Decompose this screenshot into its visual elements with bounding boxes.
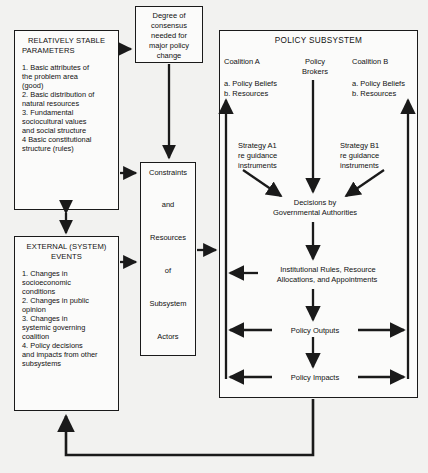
external-events-item-9: 4. Policy decisions [22, 341, 117, 350]
policy-subsystem-title: POLICY SUBSYSTEM [219, 36, 418, 46]
external-events-item-11: subsystems [22, 359, 117, 368]
stable-parameters-item-9: 4 Basic constitutional [22, 135, 119, 144]
stable-parameters-item-5: natural resources [22, 99, 117, 108]
external-events-item-5: opinion [22, 305, 117, 314]
coalition-b-strategy-line2: re guidance [340, 151, 410, 160]
institutional-rules-line2: Allocations, and Appointments [246, 275, 408, 284]
stable-parameters-item-6: 3. Fundamental [22, 108, 117, 117]
policy-brokers-line1: Policy [285, 57, 345, 66]
constraints-line5: Subsystem [138, 299, 198, 308]
external-events-item-6: 3. Changes in [22, 314, 117, 323]
decisions-line2: Governmental Authorities [244, 208, 386, 217]
stable-parameters-item-3: (good) [22, 81, 117, 90]
stable-parameters-item-8: and social structure [22, 126, 117, 135]
coalition-b-item-2: b. Resources [352, 89, 427, 98]
stable-parameters-item-2: the problem area [22, 72, 117, 81]
degree-of-consensus-line4: major policy [135, 41, 203, 50]
stable-parameters-item-10: structure (rules) [22, 144, 117, 153]
constraints-line1: Constraints [138, 168, 198, 177]
coalition-a-strategy-line3: instruments [238, 161, 308, 170]
diagram-canvas: RELATIVELY STABLE PARAMETERS 1. Basic at… [0, 0, 428, 473]
degree-of-consensus-line2: consensus [135, 21, 203, 30]
coalition-b-strategy-line3: instruments [340, 161, 410, 170]
external-events-item-3: conditions [22, 287, 117, 296]
degree-of-consensus-line3: needed for [135, 31, 203, 40]
constraints-line4: of [138, 266, 198, 275]
constraints-line2: and [138, 200, 198, 209]
coalition-a-strategy-line1: Strategy A1 [238, 141, 308, 150]
policy-brokers-line2: Brokers [285, 67, 345, 76]
stable-parameters-item-4: 2. Basic distribution of [22, 90, 119, 99]
external-events-heading-line1: EXTERNAL (SYSTEM) [16, 242, 117, 251]
constraints-line3: Resources [138, 233, 198, 242]
external-events-item-10: and impacts from other [22, 350, 120, 359]
institutional-rules-line1: Institutional Rules, Resource [248, 265, 408, 274]
stable-parameters-heading-line1: RELATIVELY STABLE [18, 36, 115, 45]
stable-parameters-item-7: sociocultural values [22, 117, 117, 126]
constraints-line6: Actors [138, 332, 198, 341]
external-events-heading-line2: EVENTS [16, 252, 117, 261]
external-events-item-8: coalition [22, 332, 117, 341]
external-events-item-1: 1. Changes in [22, 269, 117, 278]
external-events-item-2: socioeconomic [22, 278, 117, 287]
coalition-a-name: Coalition A [224, 57, 294, 66]
degree-of-consensus-line1: Degree of [135, 11, 203, 20]
external-events-item-4: 2. Changes in public [22, 296, 119, 305]
policy-impacts-label: Policy Impacts [275, 373, 355, 382]
degree-of-consensus-line5: change [135, 51, 203, 60]
coalition-a-strategy-line2: re guidance [238, 151, 308, 160]
box-constraints-and-resources [140, 162, 196, 356]
coalition-a-item-1: a. Policy Beliefs [224, 79, 299, 88]
policy-outputs-label: Policy Outputs [275, 326, 355, 335]
stable-parameters-heading-line2: PARAMETERS [22, 46, 115, 55]
coalition-b-name: Coalition B [352, 57, 422, 66]
coalition-b-strategy-line1: Strategy B1 [340, 141, 410, 150]
coalition-b-item-1: a. Policy Beliefs [352, 79, 427, 88]
stable-parameters-item-1: 1. Basic attributes of [22, 63, 117, 72]
coalition-a-item-2: b. Resources [224, 89, 299, 98]
decisions-line1: Decisions by [250, 198, 380, 207]
external-events-item-7: systemic governing [22, 323, 117, 332]
